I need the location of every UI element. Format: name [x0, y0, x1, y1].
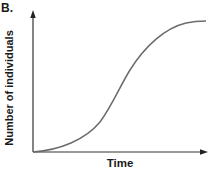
growth-curve [33, 21, 206, 152]
y-axis-label: Number of individuals [3, 30, 15, 146]
y-axis-arrow-icon [30, 10, 35, 18]
growth-chart [0, 0, 209, 171]
x-axis-arrow-icon [200, 149, 208, 154]
x-axis-label: Time [107, 157, 134, 169]
